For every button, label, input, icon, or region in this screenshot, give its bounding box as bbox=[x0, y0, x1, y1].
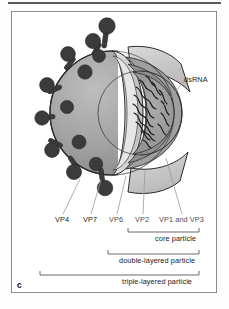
label-vp7: VP7 bbox=[83, 216, 97, 223]
panel-letter: c bbox=[17, 281, 22, 290]
dsrna-label: dsRNA bbox=[184, 76, 208, 83]
spike-face-e bbox=[93, 50, 106, 63]
spike-face-b bbox=[60, 100, 73, 113]
label-vp4: VP4 bbox=[55, 216, 69, 223]
label-vp2: VP2 bbox=[135, 216, 149, 223]
leader-vp6 bbox=[117, 176, 126, 214]
spike-face-c bbox=[72, 135, 86, 149]
spike-face-d bbox=[89, 157, 103, 171]
label-core-particle: core particle bbox=[155, 235, 196, 242]
bracket-core bbox=[128, 228, 199, 232]
bracket-double-layered bbox=[108, 250, 199, 254]
leader-vp7 bbox=[91, 180, 101, 214]
spike-face-a bbox=[78, 65, 92, 79]
label-triple-layered-particle: triple-layered particle bbox=[122, 278, 192, 285]
bracket-triple-layered bbox=[40, 271, 199, 275]
label-double-layered-particle: double-layered particle bbox=[119, 257, 195, 264]
label-vp6: VP6 bbox=[109, 216, 123, 223]
figure-panel-c: dsRNA VP4 VP7 VP6 VP2 VP1 and VP3 core p… bbox=[0, 0, 229, 309]
leader-vp4 bbox=[63, 179, 80, 214]
label-vp1-and-vp3: VP1 and VP3 bbox=[159, 216, 204, 223]
